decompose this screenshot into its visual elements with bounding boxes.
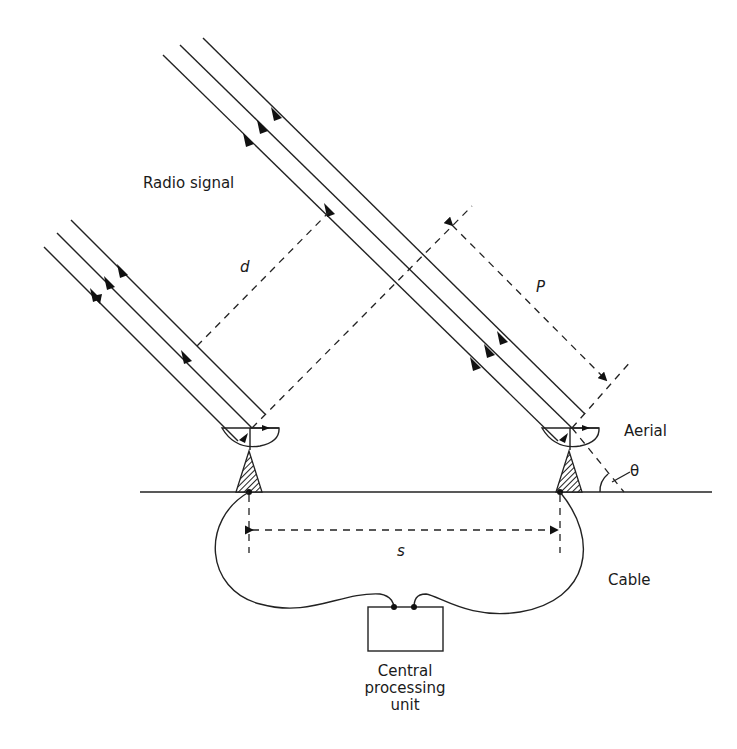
p-dimension: P bbox=[452, 225, 606, 380]
left-signal-rays bbox=[44, 220, 265, 441]
ray-arrow-icon bbox=[104, 276, 115, 290]
wavefront-line-right bbox=[572, 360, 632, 428]
cpu-label-line3: unit bbox=[390, 696, 419, 714]
ray-arrow-icon bbox=[257, 120, 268, 134]
cable-label: Cable bbox=[608, 571, 651, 589]
theta-line bbox=[572, 428, 624, 492]
cpu-label-line1: Central bbox=[378, 662, 433, 680]
ray-arrow-icon bbox=[243, 133, 254, 147]
radio-signal-label: Radio signal bbox=[143, 174, 234, 192]
interferometer-diagram: d P θ Aerial bbox=[0, 0, 737, 749]
s-label: s bbox=[397, 542, 405, 560]
right-aerial bbox=[542, 425, 599, 492]
right-signal-rays bbox=[163, 38, 585, 441]
theta-arc bbox=[600, 474, 608, 492]
cpu-label-line2: processing bbox=[365, 679, 446, 697]
theta-label: θ bbox=[630, 462, 639, 480]
central-processing-unit: Central processing unit bbox=[365, 604, 446, 714]
d-label: d bbox=[240, 258, 250, 276]
aerial-label: Aerial bbox=[624, 422, 667, 440]
d-dimension: d bbox=[197, 208, 333, 346]
s-dimension: s bbox=[249, 495, 560, 560]
wavefront-line bbox=[252, 206, 472, 428]
ray-arrow-icon bbox=[181, 350, 192, 364]
left-aerial bbox=[222, 425, 279, 492]
p-label: P bbox=[536, 278, 546, 296]
